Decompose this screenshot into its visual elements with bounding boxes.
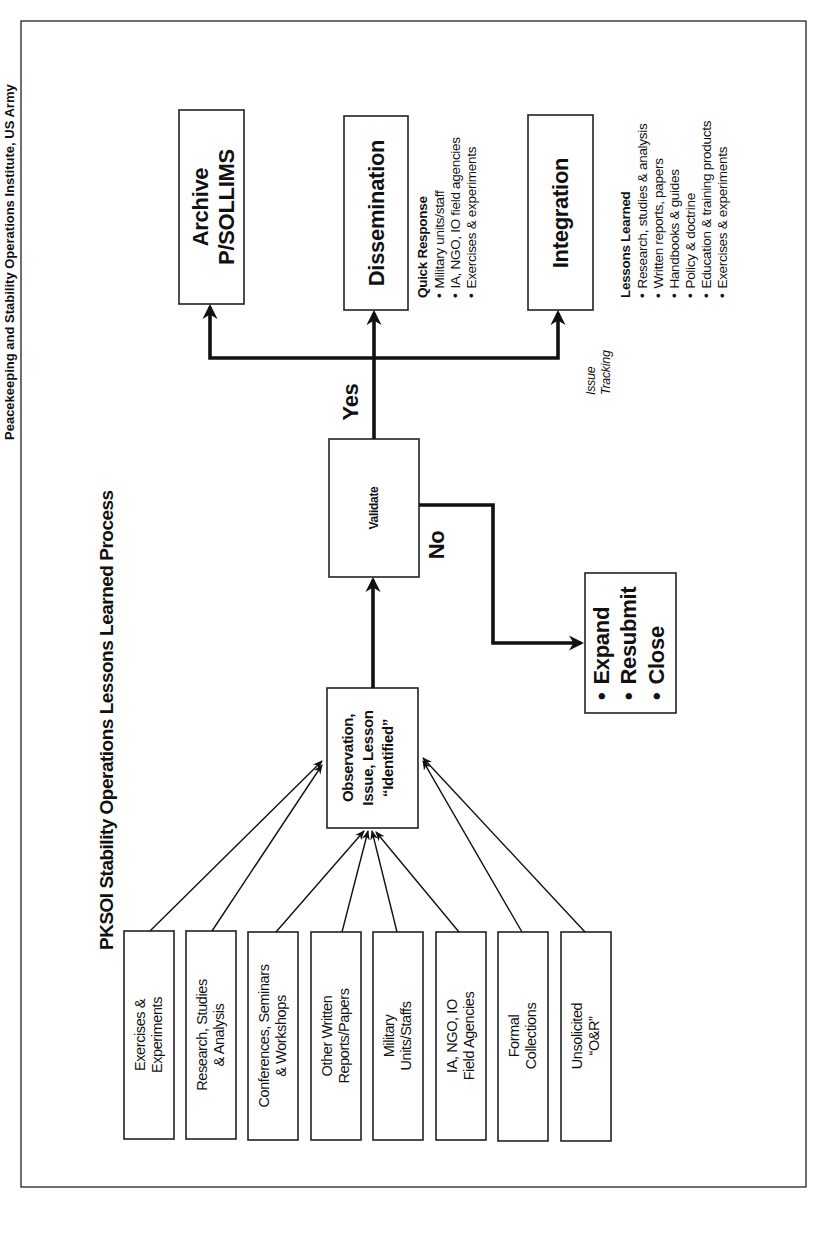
reject-options-box: •Expand •Resubmit •Close — [585, 573, 676, 713]
source-label-line2: Collections — [523, 1003, 539, 1070]
source-box-unsolicited: Unsolicited “O&R” — [561, 932, 611, 1141]
source-label-line2: Field Agencies — [461, 992, 477, 1081]
issue-tracking-line2: Tracking — [599, 350, 613, 395]
lessons-learned-list: Lessons Learned •Research, studies & ana… — [618, 120, 730, 298]
quick-response-heading: Quick Response — [415, 196, 430, 298]
dissemination-box: Dissemination — [344, 116, 408, 310]
source-label-line2: Reports/Papers — [336, 988, 352, 1083]
validate-label: Validate — [367, 486, 381, 530]
diagram-title: PKSOI Stability Operations Lessons Learn… — [96, 490, 117, 950]
source-label-line2: “O&R” — [586, 1016, 602, 1056]
quick-response-list: Quick Response •Military units/staff •IA… — [415, 137, 479, 298]
source-box-formal-collections: Formal Collections — [498, 932, 548, 1141]
source-label-line1: Conferences, Seminars — [256, 964, 272, 1107]
source-box-military-units: Military Units/Staffs — [373, 932, 423, 1140]
issue-tracking-line1: Issue — [584, 366, 598, 395]
lessons-learned-item: •Policy & doctrine — [683, 193, 698, 298]
validate-box: Validate — [329, 439, 419, 577]
lessons-learned-item: •Exercises & experiments — [715, 146, 730, 298]
source-box-research: Research, Studies & Analysis — [186, 931, 236, 1139]
source-label-line1: Exercises & — [132, 998, 148, 1071]
lessons-learned-diagram: Peacekeeping and Stability Operations In… — [0, 0, 814, 1235]
source-label-line2: & Workshops — [273, 995, 289, 1077]
archive-box: Archive P/SOLLIMS — [179, 110, 244, 304]
source-label-line1: Formal — [506, 1014, 522, 1057]
source-box-conferences: Conferences, Seminars & Workshops — [248, 932, 298, 1140]
observation-box: Observation, Issue, Lesson “Identified” — [327, 688, 418, 828]
source-boxes: Exercises & Experiments Research, Studie… — [124, 931, 611, 1141]
lessons-learned-item: •Research, studies & analysis — [635, 123, 650, 298]
archive-line1: Archive — [188, 168, 213, 247]
source-label-line1: Research, Studies — [194, 979, 210, 1091]
dissemination-label: Dissemination — [364, 140, 389, 286]
source-label-line1: Other Written — [319, 995, 335, 1076]
no-path-arrow — [419, 505, 581, 643]
lessons-learned-item: •Written reports, papers — [651, 158, 666, 298]
lessons-learned-item: •Handbooks & guides — [667, 169, 682, 298]
yes-branch-integration — [374, 313, 558, 358]
no-label: No — [424, 531, 449, 560]
reject-option-resubmit: •Resubmit — [616, 586, 641, 700]
partial-caption: Peacekeeping and Stability Operations In… — [2, 84, 17, 440]
source-box-exercises: Exercises & Experiments — [124, 931, 174, 1139]
observation-line1: Observation, — [339, 714, 356, 802]
integration-label: Integration — [548, 158, 573, 268]
quick-response-item: •IA, NGO, IO field agencies — [448, 137, 463, 298]
quick-response-item: •Exercises & experiments — [464, 146, 479, 298]
source-label-line2: & Analysis — [211, 1003, 227, 1066]
yes-branch-archive — [210, 307, 374, 358]
archive-line2: P/SOLLIMS — [214, 149, 239, 265]
quick-response-item: •Military units/staff — [432, 190, 447, 298]
lessons-learned-item: •Education & training products — [699, 120, 714, 298]
source-label-line2: Units/Staffs — [398, 1001, 414, 1070]
observation-line2: Issue, Lesson — [359, 710, 376, 805]
source-label-line2: Experiments — [149, 997, 165, 1073]
yes-label: Yes — [338, 383, 363, 420]
source-label-line1: Unsolicited — [569, 1002, 585, 1069]
integration-box: Integration — [528, 115, 593, 310]
source-label-line1: IA, NGO, IO — [444, 999, 460, 1073]
source-box-written-reports: Other Written Reports/Papers — [311, 932, 361, 1140]
lessons-learned-heading: Lessons Learned — [618, 191, 633, 298]
source-box-field-agencies: IA, NGO, IO Field Agencies — [436, 932, 486, 1140]
observation-line3: “Identified” — [379, 719, 396, 797]
source-label-line1: Military — [381, 1013, 397, 1057]
